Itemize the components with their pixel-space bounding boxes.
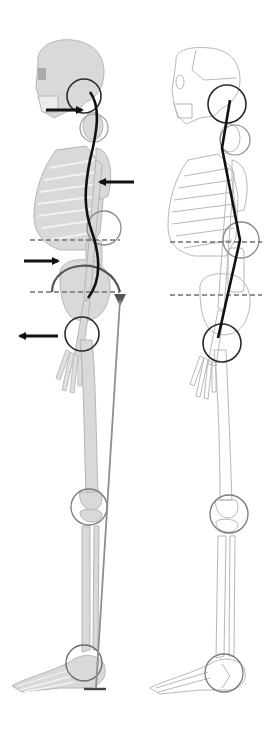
circle-hip-right xyxy=(203,324,241,362)
posture-diagram xyxy=(0,0,274,729)
alignment-line xyxy=(218,100,240,338)
foot-bones-outline xyxy=(156,664,230,692)
tibia-head xyxy=(80,509,102,522)
femur xyxy=(80,340,98,492)
fibula xyxy=(93,526,99,650)
right-skeleton xyxy=(150,48,250,694)
hand-outline xyxy=(190,356,216,399)
circle-ankle-right xyxy=(205,654,243,692)
humerus-outline xyxy=(218,168,234,310)
eye-socket-outline xyxy=(176,75,184,89)
tibia xyxy=(82,526,90,652)
diagram-canvas xyxy=(0,0,274,729)
foot-outline xyxy=(150,659,245,694)
circle-knee-right xyxy=(210,495,248,533)
knee-joint xyxy=(80,492,102,510)
hand xyxy=(56,350,82,393)
femur-outline xyxy=(214,350,232,500)
tibia-outline xyxy=(216,536,226,658)
eye-socket xyxy=(38,68,46,80)
fibula-outline xyxy=(229,536,235,656)
knee-outline xyxy=(216,500,238,518)
